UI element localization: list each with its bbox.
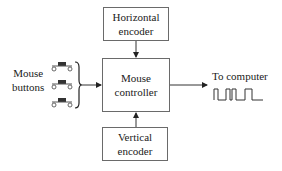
horizontal-encoder-box: Horizontal encoder: [103, 7, 169, 41]
vertical-encoder-label-2: encoder: [118, 144, 153, 158]
vertical-encoder-label-1: Vertical: [118, 130, 153, 144]
mouse-buttons-label-2: buttons: [12, 80, 44, 94]
horizontal-encoder-label-1: Horizontal: [112, 10, 159, 24]
mouse-controller-label-1: Mouse: [115, 71, 158, 85]
pulse-waveform-icon: [214, 89, 263, 100]
mouse-controller-box: Mouse controller: [102, 58, 170, 112]
mouse-button-icon: [52, 98, 72, 107]
vertical-encoder-box: Vertical encoder: [102, 127, 168, 161]
brace-icon: [75, 62, 82, 108]
mouse-controller-label-2: controller: [115, 85, 158, 99]
mouse-button-icon: [52, 62, 72, 71]
mouse-button-icon: [52, 80, 72, 89]
mouse-buttons-label: Mouse buttons: [12, 66, 44, 94]
horizontal-encoder-label-2: encoder: [112, 24, 159, 38]
to-computer-label: To computer: [212, 69, 268, 83]
mouse-buttons-label-1: Mouse: [12, 66, 44, 80]
